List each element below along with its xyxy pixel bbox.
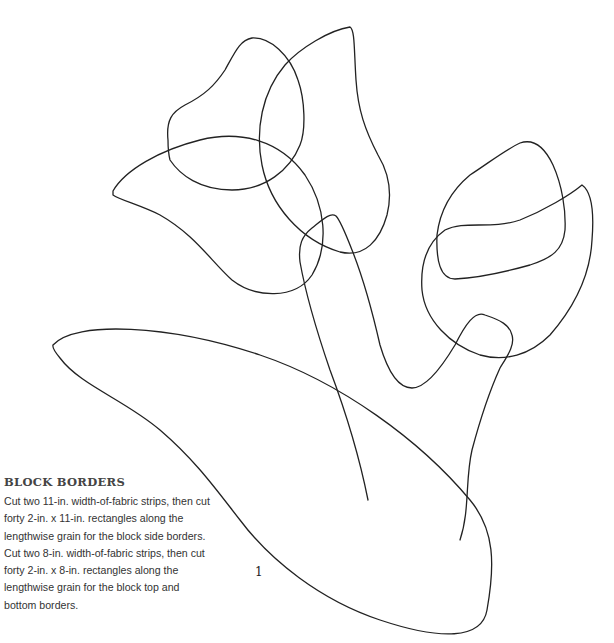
instructions-block: BLOCK BORDERS Cut two 11-in. width-of-fa… <box>4 475 214 614</box>
upper-left-petal-outline <box>168 38 304 190</box>
center-petal-outline <box>259 27 389 253</box>
right-bud-inner-petal-outline <box>437 142 565 279</box>
instructions-heading: BLOCK BORDERS <box>4 475 214 490</box>
page-number: 1 <box>255 565 263 579</box>
stem-outline <box>300 215 513 540</box>
instructions-body: Cut two 11-in. width-of-fabric strips, t… <box>4 493 214 614</box>
